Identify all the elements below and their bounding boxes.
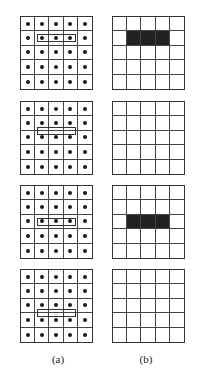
grid-cell: [127, 102, 141, 116]
grid-cell: [64, 160, 78, 174]
grid-cell: [78, 17, 92, 31]
grid-cell: [21, 186, 35, 200]
grid-cell: [156, 60, 170, 74]
grid-cell: [78, 60, 92, 74]
grid-cell: [21, 60, 35, 74]
grid-cell: [156, 17, 170, 31]
grid-cell: [78, 328, 92, 342]
grid-cell: [78, 244, 92, 258]
sample-dot: [40, 107, 44, 111]
grid-cell: [170, 284, 184, 298]
grid-cell: [78, 131, 92, 145]
grid-cell: [113, 75, 127, 89]
grid-cell: [64, 244, 78, 258]
grid-cell: [64, 17, 78, 31]
sample-dot: [68, 65, 72, 69]
sample-dot: [26, 65, 30, 69]
sample-dot: [68, 150, 72, 154]
grid-cell: [113, 17, 127, 31]
grid-cell: [64, 145, 78, 159]
filled-cell: [156, 215, 170, 229]
grid-cell: [21, 229, 35, 243]
sampling-grid-2: [20, 101, 93, 175]
sample-dot: [54, 80, 58, 84]
grid-cell: [141, 328, 155, 342]
sample-dot: [26, 80, 30, 84]
sample-dot: [26, 191, 30, 195]
grid-cell: [78, 229, 92, 243]
grid-cell: [170, 313, 184, 327]
grid-cell: [127, 75, 141, 89]
grid-cell: [49, 270, 63, 284]
grid-cell: [156, 145, 170, 159]
grid-cell: [127, 186, 141, 200]
sample-dot: [40, 50, 44, 54]
grid-cell: [21, 31, 35, 45]
grid-cell: [78, 160, 92, 174]
sample-dot: [40, 289, 44, 293]
sample-dot: [54, 234, 58, 238]
sample-dot: [40, 80, 44, 84]
sample-dot: [83, 191, 87, 195]
grid-cell: [21, 102, 35, 116]
sample-dot: [40, 303, 44, 307]
grid-cell: [127, 229, 141, 243]
grid-cell: [49, 328, 63, 342]
sample-dot: [26, 150, 30, 154]
selection-window-4: [37, 309, 77, 317]
sample-dot: [40, 22, 44, 26]
grid-cell: [141, 229, 155, 243]
sample-dot: [54, 121, 58, 125]
sample-dot: [40, 318, 44, 322]
grid-cell: [141, 186, 155, 200]
grid-cell: [156, 200, 170, 214]
sample-dot: [83, 289, 87, 293]
selection-window-1: [37, 34, 77, 42]
sample-dot: [40, 234, 44, 238]
sample-dot: [26, 333, 30, 337]
filled-cell: [127, 31, 141, 45]
sample-dot: [83, 50, 87, 54]
grid-cell: [49, 284, 63, 298]
grid-cell: [141, 17, 155, 31]
grid-cell: [35, 17, 49, 31]
grid-cell: [113, 284, 127, 298]
sample-dot: [68, 22, 72, 26]
sample-dot: [68, 191, 72, 195]
grid-cell: [127, 270, 141, 284]
grid-cell: [35, 200, 49, 214]
sample-dot: [83, 150, 87, 154]
grid-cell: [78, 145, 92, 159]
grid-cell: [127, 131, 141, 145]
grid-cell: [156, 75, 170, 89]
sample-dot: [54, 191, 58, 195]
sample-dot: [83, 303, 87, 307]
grid-cell: [141, 284, 155, 298]
grid-cell: [49, 200, 63, 214]
sample-dot: [54, 150, 58, 154]
grid-cell: [141, 200, 155, 214]
grid-cell: [21, 313, 35, 327]
sample-dot: [83, 36, 87, 40]
sample-dot: [26, 165, 30, 169]
grid-cell: [35, 60, 49, 74]
sampling-grid-4: [20, 269, 93, 343]
sample-dot: [83, 249, 87, 253]
grid-cell: [156, 102, 170, 116]
sample-dot: [68, 333, 72, 337]
sample-dot: [54, 333, 58, 337]
grid-cell: [170, 270, 184, 284]
sample-dot: [26, 107, 30, 111]
grid-cell: [170, 160, 184, 174]
sample-dot: [40, 65, 44, 69]
sample-dot: [54, 22, 58, 26]
grid-cell: [21, 75, 35, 89]
grid-cell: [113, 60, 127, 74]
grid-cell: [170, 31, 184, 45]
grid-cell: [170, 328, 184, 342]
grid-cell: [127, 17, 141, 31]
grid-cell: [113, 244, 127, 258]
sample-dot: [68, 135, 72, 139]
sample-dot: [68, 289, 72, 293]
grid-cell: [78, 75, 92, 89]
